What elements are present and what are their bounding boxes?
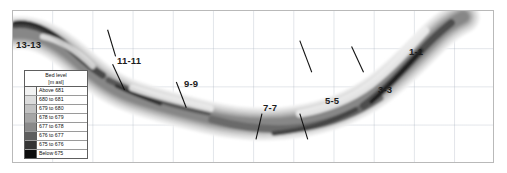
cross-section-label-11-11: 11-11 (117, 56, 141, 66)
legend-label: 679 to 680 (37, 105, 87, 113)
legend-swatch (25, 96, 37, 104)
legend-swatch (25, 141, 37, 149)
legend-swatch (25, 150, 37, 158)
legend-swatch (25, 123, 37, 131)
cross-section-label-13-13: 13-13 (16, 40, 41, 50)
legend-swatch (25, 105, 37, 113)
legend-label: Below 675 (37, 150, 87, 158)
cross-section-label-7-7: 7-7 (263, 103, 277, 113)
legend-title-line1: Bed level (25, 72, 87, 79)
legend-row: 676 to 677 (25, 132, 87, 141)
bed-level-legend: Bed level [m asl] Above 681 680 to 681 6… (24, 70, 88, 159)
legend-label: 675 to 676 (37, 141, 87, 149)
legend-swatch (25, 87, 37, 95)
cross-section-label-1-1: 1-1 (409, 47, 423, 57)
legend-label: 680 to 681 (37, 96, 87, 104)
legend-swatch (25, 114, 37, 122)
legend-title-line2: [m asl] (25, 79, 87, 86)
legend-swatch (25, 132, 37, 140)
cross-section-label-9-9: 9-9 (184, 79, 198, 89)
legend-title: Bed level [m asl] (25, 71, 87, 87)
legend-row: 679 to 680 (25, 105, 87, 114)
legend-row: Above 681 (25, 87, 87, 96)
legend-label: Above 681 (37, 87, 87, 95)
legend-row: 678 to 679 (25, 114, 87, 123)
legend-row: 677 to 678 (25, 123, 87, 132)
legend-row: 675 to 676 (25, 141, 87, 150)
legend-row: 680 to 681 (25, 96, 87, 105)
cross-section-label-5-5: 5-5 (325, 96, 339, 106)
legend-label: 677 to 678 (37, 123, 87, 131)
cross-section-label-3-3: 3-3 (378, 85, 392, 95)
legend-label: 676 to 677 (37, 132, 87, 140)
legend-label: 678 to 679 (37, 114, 87, 122)
legend-row: Below 675 (25, 150, 87, 158)
bathymetry-figure: 1-1 3-3 5-5 7-7 9-9 11-11 13-13 Bed leve… (0, 0, 507, 173)
